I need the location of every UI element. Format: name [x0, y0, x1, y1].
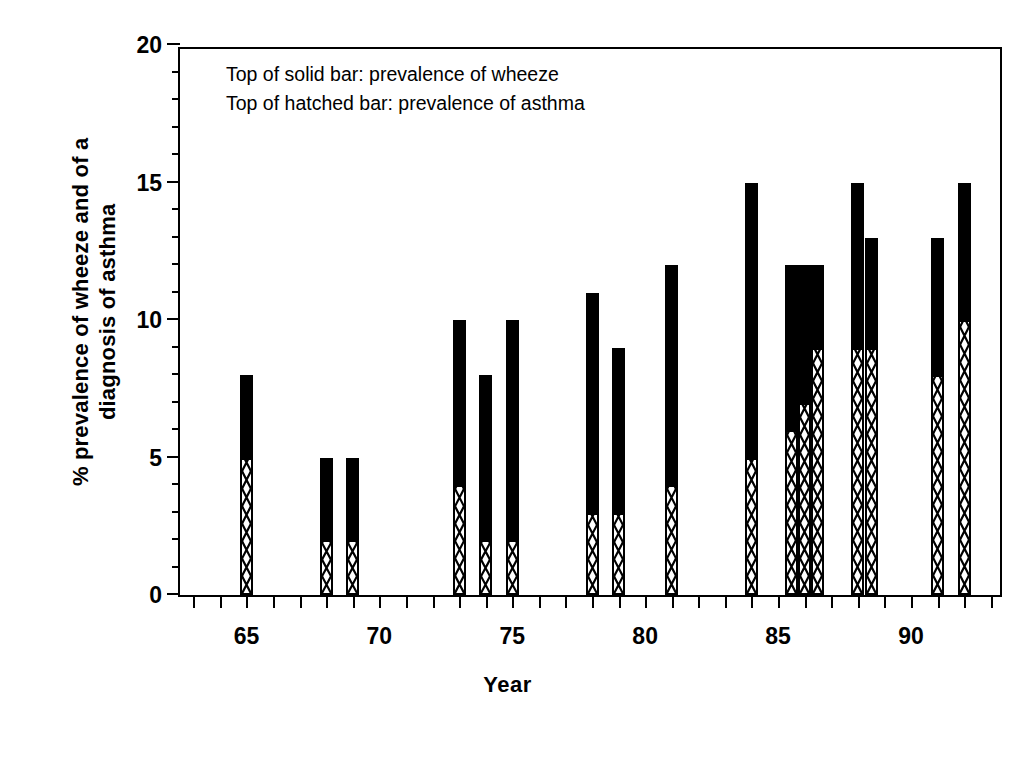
bar-hatched-segment-asthma [865, 348, 878, 596]
x-axis-tick [805, 595, 807, 608]
y-axis-minor-tick [172, 511, 180, 513]
y-axis-minor-tick [172, 236, 180, 238]
x-axis-tick [406, 595, 408, 608]
x-axis-tick [246, 595, 248, 608]
x-axis-tick [672, 595, 674, 608]
x-axis-tick [938, 595, 940, 608]
x-axis-tick [964, 595, 966, 608]
x-axis-tick [379, 595, 381, 608]
chart-bar [320, 458, 333, 596]
bar-solid-segment-wheeze [240, 375, 253, 458]
bar-hatched-segment-asthma [745, 458, 758, 596]
y-axis-minor-tick [172, 483, 180, 485]
bar-solid-segment-wheeze [931, 238, 944, 376]
y-axis-minor-tick [172, 428, 180, 430]
bar-solid-segment-wheeze [665, 265, 678, 485]
bar-solid-segment-wheeze [506, 320, 519, 540]
y-axis-minor-tick [172, 153, 180, 155]
chart-bar [346, 458, 359, 596]
y-axis-minor-tick [172, 126, 180, 128]
chart-bar [958, 183, 971, 596]
bar-hatched-segment-asthma [453, 485, 466, 595]
y-axis-major-tick [167, 318, 180, 320]
chart-bar [811, 265, 824, 595]
x-axis-tick [619, 595, 621, 608]
chart-bar [785, 265, 798, 595]
y-axis-title-line-1: % prevalence of wheeze and of a [68, 32, 95, 592]
bar-solid-segment-wheeze [798, 265, 811, 403]
bar-hatched-segment-asthma [811, 348, 824, 596]
bar-hatched-segment-asthma [798, 403, 811, 596]
chart-bar [851, 183, 864, 596]
x-axis-title: Year [0, 672, 1015, 698]
bar-hatched-segment-asthma [851, 348, 864, 596]
bar-hatched-segment-asthma [612, 513, 625, 596]
y-axis-minor-tick [172, 208, 180, 210]
bar-hatched-segment-asthma [665, 485, 678, 595]
x-axis-tick-label: 90 [898, 623, 924, 650]
bar-solid-segment-wheeze [453, 320, 466, 485]
bar-solid-segment-wheeze [479, 375, 492, 540]
chart-figure: % prevalence of wheeze and of a diagnosi… [0, 0, 1015, 758]
y-axis-minor-tick [172, 401, 180, 403]
x-axis-tick [326, 595, 328, 608]
bar-hatched-segment-asthma [479, 540, 492, 595]
x-axis-tick [858, 595, 860, 608]
y-axis-minor-tick [172, 346, 180, 348]
x-axis-tick [459, 595, 461, 608]
y-axis-major-tick [167, 593, 180, 595]
x-axis-tick [193, 595, 195, 608]
y-axis-minor-tick [172, 538, 180, 540]
bar-solid-segment-wheeze [320, 458, 333, 541]
x-axis-tick [486, 595, 488, 608]
bar-solid-segment-wheeze [785, 265, 798, 430]
chart-bar [240, 375, 253, 595]
x-axis-tick [725, 595, 727, 608]
bar-solid-segment-wheeze [811, 265, 824, 348]
x-axis-tick [991, 595, 993, 608]
y-axis-major-tick [167, 181, 180, 183]
chart-bar [586, 293, 599, 596]
bar-hatched-segment-asthma [785, 430, 798, 595]
y-axis-minor-tick [172, 566, 180, 568]
bar-hatched-segment-asthma [958, 320, 971, 595]
chart-bar [931, 238, 944, 596]
x-axis-tick [433, 595, 435, 608]
bar-hatched-segment-asthma [240, 458, 253, 596]
y-axis-title-line-2: diagnosis of asthma [95, 32, 122, 592]
y-axis-tick-label: 5 [149, 444, 162, 471]
bar-solid-segment-wheeze [586, 293, 599, 513]
x-axis-tick [353, 595, 355, 608]
chart-bar [612, 348, 625, 596]
y-axis-minor-tick [172, 98, 180, 100]
y-axis-minor-tick [172, 71, 180, 73]
x-axis-tick [831, 595, 833, 608]
x-axis-tick [778, 595, 780, 608]
bar-hatched-segment-asthma [586, 513, 599, 596]
x-axis-tick [645, 595, 647, 608]
chart-bar [865, 238, 878, 596]
x-axis-tick [751, 595, 753, 608]
bar-hatched-segment-asthma [346, 540, 359, 595]
chart-bar [745, 183, 758, 596]
chart-bar [506, 320, 519, 595]
bar-hatched-segment-asthma [931, 375, 944, 595]
x-axis-tick [884, 595, 886, 608]
x-axis-tick-label: 80 [632, 623, 658, 650]
x-axis-tick [300, 595, 302, 608]
y-axis-minor-tick [172, 373, 180, 375]
x-axis-tick [565, 595, 567, 608]
bar-solid-segment-wheeze [958, 183, 971, 321]
y-axis-major-tick [167, 43, 180, 45]
chart-bar [798, 265, 811, 595]
x-axis-tick [698, 595, 700, 608]
bar-hatched-segment-asthma [506, 540, 519, 595]
y-axis-tick-label: 10 [136, 307, 162, 334]
bar-solid-segment-wheeze [612, 348, 625, 513]
x-axis-tick-label: 65 [234, 623, 260, 650]
x-axis-tick [512, 595, 514, 608]
y-axis-minor-tick [172, 263, 180, 265]
bar-solid-segment-wheeze [851, 183, 864, 348]
x-axis-tick [539, 595, 541, 608]
bar-solid-segment-wheeze [346, 458, 359, 541]
